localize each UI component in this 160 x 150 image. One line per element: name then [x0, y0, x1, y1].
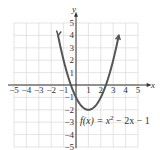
- arrow-icon: [57, 31, 62, 36]
- y-tick-label: −2: [64, 105, 74, 115]
- y-tick-label: 5: [70, 18, 75, 28]
- y-tick-label: −3: [64, 117, 74, 127]
- y-tick-label: 3: [70, 43, 75, 53]
- x-tick-label: −3: [34, 85, 44, 95]
- x-tick-label: 5: [136, 85, 141, 95]
- tick-labels: −5−4−3−2−11234554321−1−2−3−4−5: [9, 18, 141, 150]
- y-tick-label: −1: [64, 92, 74, 102]
- x-tick-label: −5: [9, 85, 19, 95]
- y-tick-label: −4: [64, 130, 74, 140]
- x-axis-label: x: [150, 80, 155, 90]
- parabola-graph: −5−4−3−2−11234554321−1−2−3−4−5 x y f(x) …: [0, 0, 160, 150]
- y-tick-label: 2: [70, 55, 75, 65]
- x-tick-label: −2: [46, 85, 56, 95]
- y-axis-label: y: [71, 4, 76, 14]
- eq-suffix: − 2x − 1: [114, 115, 150, 126]
- eq-prefix: f(x) = x: [80, 115, 111, 127]
- x-tick-label: 1: [86, 85, 91, 95]
- x-tick-label: 3: [111, 85, 116, 95]
- function-label: f(x) = x2 − 2x − 1: [80, 114, 150, 127]
- x-tick-label: 4: [123, 85, 128, 95]
- y-tick-label: −5: [64, 142, 74, 150]
- y-tick-label: 4: [70, 30, 75, 40]
- y-tick-label: 1: [70, 68, 75, 78]
- x-tick-label: −4: [22, 85, 32, 95]
- axes: [8, 12, 152, 148]
